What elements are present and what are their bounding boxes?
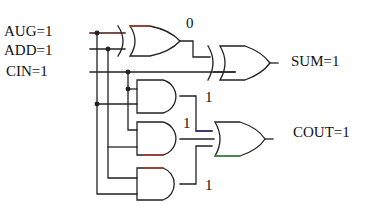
bus-aug <box>97 33 137 194</box>
circuit-diagram <box>0 0 369 209</box>
wire-and1-out <box>180 96 212 131</box>
wire-xor1-out <box>180 41 210 57</box>
bus-cin <box>128 72 137 130</box>
and-gate-2 <box>137 122 176 155</box>
or-gate <box>215 122 265 156</box>
bus-add <box>108 49 137 178</box>
and-gate-3 <box>137 168 174 200</box>
wire-and3-out <box>180 146 212 184</box>
xor-gate-1 <box>118 26 180 56</box>
and-gate-1 <box>137 80 176 113</box>
xor-gate-2 <box>208 46 270 80</box>
